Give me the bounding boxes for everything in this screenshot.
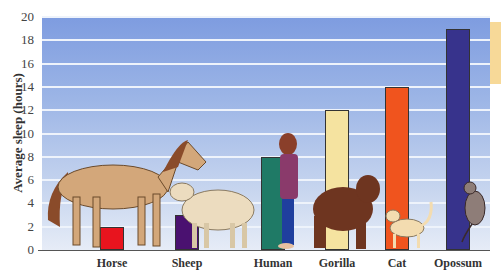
- y-tick-label: 0: [14, 243, 34, 256]
- decorative-strip: [490, 22, 501, 84]
- y-tick-label: 2: [14, 220, 34, 233]
- y-tick-label: 6: [14, 173, 34, 186]
- y-tick-label: 8: [14, 150, 34, 163]
- y-tick-label: 14: [14, 80, 34, 93]
- y-tick-label: 16: [14, 57, 34, 70]
- y-tick-label: 10: [14, 127, 34, 140]
- gridline: [42, 109, 490, 111]
- y-tick-label: 4: [14, 196, 34, 209]
- y-tick-label: 12: [14, 103, 34, 116]
- x-tick-label: Opossum: [423, 256, 493, 271]
- gridline: [42, 86, 490, 88]
- x-tick-label: Cat: [362, 256, 432, 271]
- gridline: [42, 16, 490, 18]
- x-axis-line: [38, 250, 490, 251]
- gridline: [42, 39, 490, 41]
- y-tick-label: 18: [14, 33, 34, 46]
- sheep-illustration: [168, 178, 258, 250]
- x-tick-label: Sheep: [152, 256, 222, 271]
- gridline: [42, 63, 490, 65]
- x-tick-label: Horse: [77, 256, 147, 271]
- gorilla-illustration: [308, 171, 383, 250]
- opossum-illustration: [458, 180, 488, 244]
- cat-illustration: [385, 200, 437, 250]
- x-tick-label: Human: [238, 256, 308, 271]
- y-tick-label: 20: [14, 10, 34, 23]
- human-illustration: [272, 132, 306, 250]
